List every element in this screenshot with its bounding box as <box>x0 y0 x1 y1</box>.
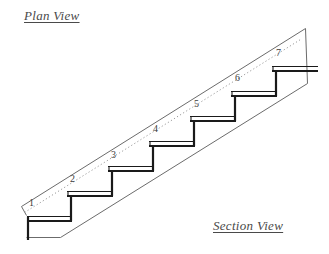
step-number-5: 5 <box>194 99 199 109</box>
step-number-1: 1 <box>29 198 34 208</box>
staircase-drawing-figure: 1 2 3 4 5 6 7 Plan View Section View <box>0 0 329 254</box>
step-number-3: 3 <box>111 150 116 160</box>
step-number-7: 7 <box>276 48 281 58</box>
band-left-end-edge <box>22 207 27 216</box>
band-lower-edge <box>61 84 308 238</box>
plan-band-outline <box>22 29 308 238</box>
step-number-2: 2 <box>70 174 75 184</box>
step-7 <box>272 67 318 72</box>
section-step-profile <box>27 67 318 241</box>
step-number-4: 4 <box>153 124 158 134</box>
band-right-end-edge <box>306 29 308 84</box>
staircase-oblique-drawing <box>0 0 329 254</box>
nosing-dotted-line <box>25 40 301 213</box>
band-upper-edge <box>22 29 306 207</box>
plan-view-label: Plan View <box>24 8 80 24</box>
section-view-label: Section View <box>213 218 283 234</box>
step-number-6: 6 <box>235 73 240 83</box>
